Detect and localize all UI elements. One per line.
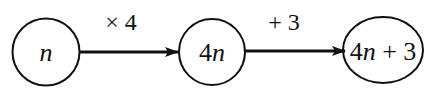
- edge-label-plus-3: + 3: [268, 9, 300, 35]
- edge-plus-3: + 3: [245, 9, 345, 51]
- node-n-label: n: [40, 38, 53, 67]
- node-4n-plus-3-label: 4n + 3: [350, 37, 417, 66]
- svg-text:n: n: [40, 38, 53, 67]
- node-4n-label: 4n: [199, 38, 225, 67]
- node-4n-plus-3: 4n + 3: [343, 17, 423, 83]
- edge-label-times-4: × 4: [105, 9, 137, 35]
- function-machine-diagram: n × 4 4n + 3 4n + 3: [0, 0, 425, 105]
- edge-times-4: × 4: [80, 9, 178, 52]
- node-4n: 4n: [179, 19, 245, 85]
- node-n: n: [13, 19, 80, 86]
